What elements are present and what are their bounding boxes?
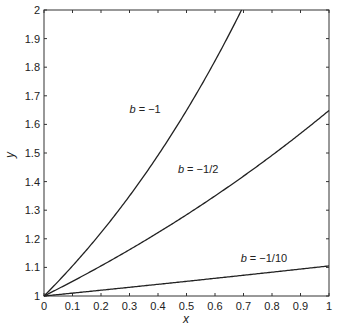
x-tick-label: 0.1	[65, 300, 80, 312]
curve-annotations: b = −1b = −1/2b = −1/10	[130, 103, 288, 264]
x-tick-label: 0.2	[93, 300, 108, 312]
curve-label: b = −1/10	[241, 252, 288, 264]
x-tick-label: 0.8	[264, 300, 279, 312]
x-tick-label: 0.9	[293, 300, 308, 312]
y-tick-label: 1.8	[25, 61, 40, 73]
y-tick-label: 2	[34, 4, 40, 16]
x-axis-label: x	[182, 312, 190, 326]
x-axis-ticks: 00.10.20.30.40.50.60.70.80.91	[41, 10, 332, 312]
y-tick-label: 1.4	[25, 176, 40, 188]
y-tick-label: 1.7	[25, 90, 40, 102]
curve-label: b = −1/2	[178, 163, 218, 175]
x-tick-label: 1	[326, 300, 332, 312]
x-tick-label: 0.5	[179, 300, 194, 312]
y-tick-label: 1.2	[25, 233, 40, 245]
chart: 00.10.20.30.40.50.60.70.80.91 11.11.21.3…	[0, 0, 341, 333]
x-tick-label: 0.7	[236, 300, 251, 312]
curve-label: b = −1	[130, 103, 161, 115]
x-tick-label: 0.4	[150, 300, 165, 312]
series-line	[44, 110, 329, 296]
y-tick-label: 1.6	[25, 118, 40, 130]
series-line	[44, 266, 329, 296]
y-tick-label: 1.3	[25, 204, 40, 216]
series-line	[44, 10, 242, 296]
y-axis-label: y	[3, 151, 17, 159]
y-tick-label: 1.9	[25, 33, 40, 45]
x-tick-label: 0.3	[122, 300, 137, 312]
y-tick-label: 1	[34, 290, 40, 302]
y-tick-label: 1.5	[25, 147, 40, 159]
y-tick-label: 1.1	[25, 261, 40, 273]
x-tick-label: 0	[41, 300, 47, 312]
x-tick-label: 0.6	[207, 300, 222, 312]
